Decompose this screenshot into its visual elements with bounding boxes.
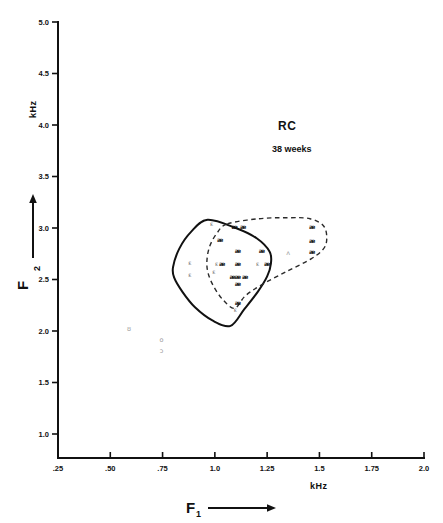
chart-subtitle: 38 weeks — [272, 144, 312, 154]
x-tick-label: .50 — [105, 464, 115, 473]
x-axis-unit-label: kHz — [310, 481, 328, 491]
y-tick-label: 3.5 — [39, 172, 49, 181]
y-tick-label: 3.0 — [39, 224, 49, 233]
axes-group — [58, 22, 424, 458]
data-point-ae: æ — [235, 280, 241, 287]
data-point-ae: æ — [235, 273, 241, 280]
data-point-epsilon: ɛ — [256, 260, 259, 267]
data-point-upsilon: ʊ — [127, 325, 131, 333]
y-tick-label: 2.5 — [39, 275, 49, 284]
y-axis-title-subscript: 2 — [32, 266, 42, 271]
x-axis-title-group: F 1 — [186, 499, 276, 519]
data-point-ae: æ — [235, 247, 241, 254]
y-tick-label: 1.5 — [39, 378, 49, 387]
x-tick-label: 1.5 — [314, 464, 324, 473]
x-tick-label: 1.0 — [210, 464, 220, 473]
data-point-ae: æ — [242, 273, 248, 280]
x-axis-title: F — [186, 499, 195, 516]
x-tick-label: .75 — [157, 464, 167, 473]
x-axis-arrow-head — [267, 504, 276, 512]
figure-canvas: 1.01.52.02.53.03.54.04.55.0 .25.50.751.0… — [0, 0, 443, 523]
x-tick-label: 1.75 — [364, 464, 379, 473]
x-axis-title-subscript: 1 — [196, 509, 201, 519]
data-points-group: ææææææææææææææææɛɛɛɛɛɛɛʌʊoɔ — [127, 220, 315, 355]
data-point-ae: æ — [217, 236, 223, 243]
data-point-ae: æ — [309, 237, 315, 244]
data-point-epsilon: ɛ — [188, 259, 191, 266]
chart-title: RC — [278, 119, 297, 133]
y-tick-label: 1.0 — [39, 430, 49, 439]
y-tick-label: 4.0 — [39, 121, 49, 130]
x-axis-ticks: .25.50.751.01.251.51.752.0 — [53, 452, 429, 473]
y-tick-label: 4.5 — [39, 69, 49, 78]
data-point-ae: æ — [219, 260, 225, 267]
y-axis-arrow-head — [29, 194, 37, 203]
y-axis-unit-label: kHz — [28, 100, 38, 118]
data-point-ae: æ — [259, 247, 265, 254]
data-point-ae: æ — [240, 223, 246, 230]
x-tick-label: .25 — [53, 464, 63, 473]
data-point-epsilon: ɛ — [215, 260, 218, 267]
y-axis-ticks: 1.01.52.02.53.03.54.04.55.0 — [39, 18, 58, 439]
data-point-epsilon: ɛ — [212, 268, 215, 275]
y-tick-label: 5.0 — [39, 18, 49, 27]
y-axis-title: F — [14, 281, 31, 290]
data-point-epsilon: ɛ — [234, 306, 237, 313]
contour-group — [173, 218, 327, 327]
data-point-ae: æ — [264, 260, 270, 267]
x-tick-label: 2.0 — [419, 464, 429, 473]
data-point-ae: æ — [232, 223, 238, 230]
data-point-open-o: ɔ — [160, 347, 164, 355]
data-point-ae: æ — [235, 260, 241, 267]
data-point-o: o — [160, 336, 164, 344]
data-point-epsilon: ɛ — [210, 220, 213, 227]
data-point-ae: æ — [309, 223, 315, 230]
data-point-ae: æ — [309, 248, 315, 255]
y-tick-label: 2.0 — [39, 327, 49, 336]
formant-scatter-chart: 1.01.52.02.53.03.54.04.55.0 .25.50.751.0… — [0, 0, 443, 523]
x-tick-label: 1.25 — [260, 464, 275, 473]
data-point-caret-a: ʌ — [286, 249, 290, 257]
data-point-epsilon: ɛ — [188, 271, 191, 278]
